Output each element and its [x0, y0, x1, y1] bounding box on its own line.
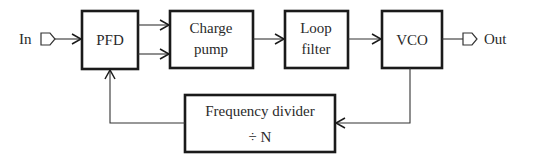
vco-block: VCO — [382, 11, 442, 68]
vco-label: VCO — [396, 32, 428, 48]
wire-vco-divider — [336, 68, 410, 123]
loop-filter-label-line1: Loop — [300, 20, 332, 36]
output-port: Out — [463, 31, 507, 47]
loop-filter-label-line2: filter — [301, 41, 330, 57]
wire-divider-pfd — [110, 70, 185, 123]
input-port: In — [19, 31, 55, 47]
output-port-icon — [463, 33, 477, 45]
input-label: In — [19, 31, 32, 47]
frequency-divider-block: Frequency divider ÷ N — [185, 95, 335, 152]
divider-label-line2: ÷ N — [249, 129, 272, 145]
charge-pump-label-line1: Charge — [189, 20, 232, 36]
pfd-label: PFD — [96, 32, 124, 48]
charge-pump-label-line2: pump — [194, 41, 228, 57]
pfd-block: PFD — [82, 11, 138, 69]
divider-label-line1: Frequency divider — [205, 103, 315, 119]
input-port-icon — [41, 33, 55, 45]
charge-pump-block: Charge pump — [170, 11, 253, 68]
loop-filter-block: Loop filter — [285, 11, 348, 68]
pll-block-diagram: In PFD Charge pump Loop filter VCO Out — [0, 0, 535, 164]
output-label: Out — [484, 31, 507, 47]
